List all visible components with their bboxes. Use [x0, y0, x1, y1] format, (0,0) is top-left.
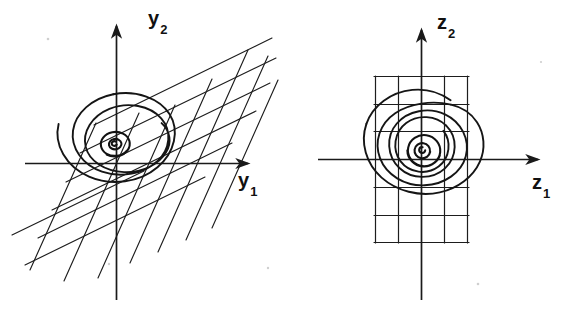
axis-label-z2-base: z: [437, 11, 447, 33]
axis-label-z1-base: z: [532, 171, 542, 193]
axis-label-y2-subscript: 2: [160, 22, 167, 37]
axis-label-y2: y2: [148, 8, 166, 32]
axis-label-y2-base: y: [148, 7, 159, 29]
figure-canvas: [0, 0, 576, 318]
axis-label-z1: z1: [532, 172, 549, 196]
axis-label-y1-subscript: 1: [250, 184, 257, 199]
axis-label-z1-subscript: 1: [543, 186, 550, 201]
axis-label-z2: z2: [437, 12, 454, 36]
axis-label-y1-base: y: [238, 169, 249, 191]
axis-label-z2-subscript: 2: [448, 26, 455, 41]
axis-label-y1: y1: [238, 170, 256, 194]
